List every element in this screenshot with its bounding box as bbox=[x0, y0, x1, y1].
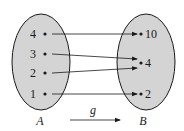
element-label: 4 bbox=[30, 27, 36, 41]
element-dot bbox=[43, 52, 46, 55]
set-b-label: B bbox=[139, 114, 147, 128]
element-label: 3 bbox=[30, 47, 36, 61]
set-a-ellipse bbox=[12, 14, 70, 110]
element-label: 2 bbox=[145, 87, 151, 101]
element-label: 1 bbox=[30, 87, 36, 101]
element-dot bbox=[139, 92, 142, 95]
function-mapping-diagram: 4 3 2 1 10 4 2 bbox=[0, 0, 184, 131]
element-dot bbox=[43, 92, 46, 95]
element-dot bbox=[139, 32, 142, 35]
diagram-canvas: 4 3 2 1 10 4 2 bbox=[0, 0, 184, 131]
set-a-label: A bbox=[35, 114, 44, 128]
element-label: 2 bbox=[30, 66, 36, 80]
element-dot bbox=[43, 71, 46, 74]
element-dot bbox=[43, 32, 46, 35]
element-dot bbox=[139, 61, 142, 64]
function-label: g bbox=[90, 103, 96, 117]
element-label: 4 bbox=[145, 56, 151, 70]
element-label: 10 bbox=[145, 27, 157, 41]
